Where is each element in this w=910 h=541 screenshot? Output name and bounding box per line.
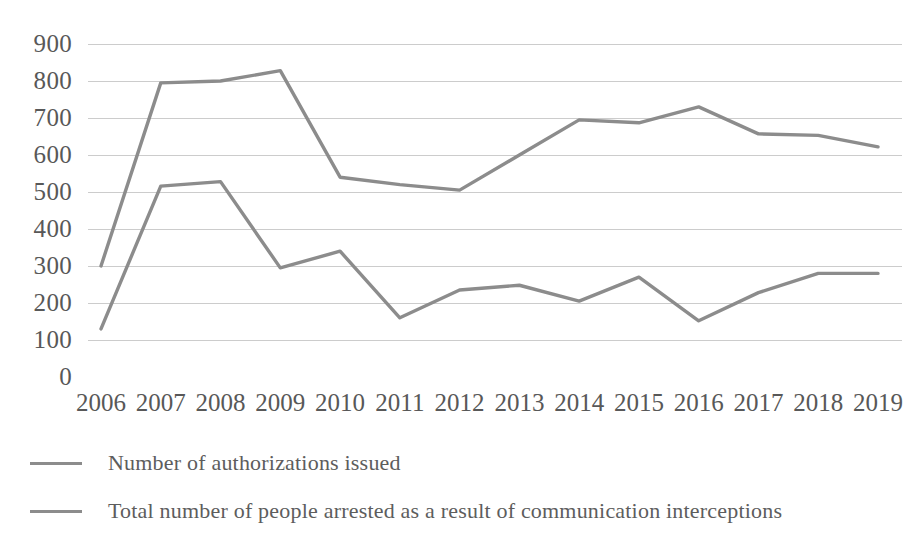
x-axis: 2006200720082009201020112012201320142015…	[0, 389, 910, 425]
legend-label-arrested: Total number of people arrested as a res…	[108, 498, 782, 524]
x-axis-tick-label: 2007	[136, 389, 186, 417]
series-line-authorizations	[101, 71, 878, 266]
series-plot	[0, 0, 910, 430]
legend-label-authorizations: Number of authorizations issued	[108, 450, 401, 476]
x-axis-tick-label: 2011	[375, 389, 424, 417]
x-axis-tick-label: 2012	[435, 389, 485, 417]
x-axis-tick-label: 2008	[196, 389, 246, 417]
line-swatch-icon	[30, 462, 82, 465]
line-chart: 9008007006005004003002001000 20062007200…	[0, 0, 910, 541]
x-axis-tick-label: 2006	[76, 389, 126, 417]
x-axis-tick-label: 2009	[255, 389, 305, 417]
legend-item-authorizations: Number of authorizations issued	[30, 446, 401, 480]
x-axis-tick-label: 2010	[315, 389, 365, 417]
plot-area: 9008007006005004003002001000 20062007200…	[0, 0, 910, 430]
x-axis-tick-label: 2016	[674, 389, 724, 417]
x-axis-tick-label: 2019	[853, 389, 903, 417]
x-axis-tick-label: 2014	[554, 389, 604, 417]
series-line-arrested	[101, 182, 878, 329]
chart-legend: Number of authorizations issued Total nu…	[0, 432, 910, 541]
x-axis-tick-label: 2017	[733, 389, 783, 417]
legend-item-arrested: Total number of people arrested as a res…	[30, 494, 782, 528]
x-axis-tick-label: 2015	[614, 389, 664, 417]
x-axis-tick-label: 2018	[793, 389, 843, 417]
x-axis-tick-label: 2013	[494, 389, 544, 417]
line-swatch-icon	[30, 510, 82, 513]
